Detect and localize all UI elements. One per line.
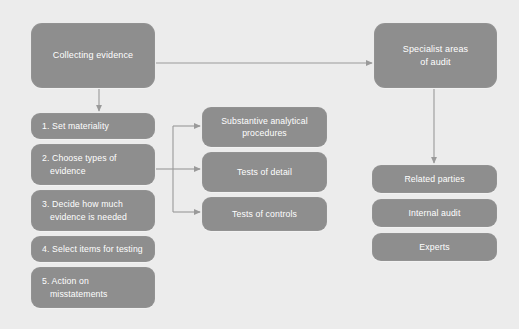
flowchart-diagram: Collecting evidence Specialist areas of … <box>0 0 519 329</box>
node-substantive-analytical-procedures-label: Substantive analytical procedures <box>221 115 308 140</box>
node-collecting-evidence[interactable]: Collecting evidence <box>31 23 155 88</box>
node-step-5-action-on-misstatements[interactable]: 5. Action onmisstatements <box>31 267 155 308</box>
node-step-3-label: 3. Decide how muchevidence is needed <box>42 198 127 223</box>
node-step-4-select-items-for-testing[interactable]: 4. Select items for testing <box>31 236 155 262</box>
node-related-parties[interactable]: Related parties <box>372 165 497 193</box>
node-tests-of-controls-label: Tests of controls <box>232 208 297 220</box>
node-internal-audit-label: Internal audit <box>409 207 461 219</box>
node-experts[interactable]: Experts <box>372 233 497 261</box>
node-step-5-label: 5. Action onmisstatements <box>42 275 108 300</box>
node-tests-of-detail-label: Tests of detail <box>237 166 292 178</box>
node-collecting-evidence-label: Collecting evidence <box>53 49 133 62</box>
node-step-4-label: 4. Select items for testing <box>42 243 143 255</box>
node-step-3-decide-how-much-evidence[interactable]: 3. Decide how muchevidence is needed <box>31 190 155 231</box>
node-step-2-choose-types-of-evidence[interactable]: 2. Choose types ofevidence <box>31 144 155 185</box>
node-step-2-label: 2. Choose types ofevidence <box>42 152 117 177</box>
node-specialist-areas-of-audit[interactable]: Specialist areas of audit <box>374 23 497 88</box>
node-tests-of-controls[interactable]: Tests of controls <box>202 197 327 231</box>
node-internal-audit[interactable]: Internal audit <box>372 199 497 227</box>
node-related-parties-label: Related parties <box>404 173 464 185</box>
node-step-1-label: 1. Set materiality <box>42 120 109 132</box>
node-step-1-set-materiality[interactable]: 1. Set materiality <box>31 113 155 139</box>
node-experts-label: Experts <box>419 241 449 253</box>
node-specialist-areas-of-audit-label: Specialist areas of audit <box>403 43 468 69</box>
node-tests-of-detail[interactable]: Tests of detail <box>202 152 327 192</box>
node-substantive-analytical-procedures[interactable]: Substantive analytical procedures <box>202 107 327 147</box>
